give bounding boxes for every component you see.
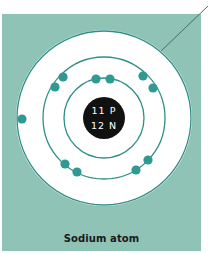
sodium-atom-diagram: 11 P 12 N Sodium atom	[0, 0, 208, 254]
electron	[72, 167, 81, 176]
electron	[105, 74, 114, 83]
electron	[60, 159, 69, 168]
electron	[50, 82, 59, 91]
electron	[131, 165, 140, 174]
nucleus	[83, 97, 125, 139]
electron	[17, 114, 26, 123]
electron	[138, 71, 147, 80]
diagram-title: Sodium atom	[2, 233, 201, 244]
electron	[148, 83, 157, 92]
protons-label: 11 P	[84, 105, 124, 116]
neutrons-label: 12 N	[84, 120, 124, 131]
electron	[58, 72, 67, 81]
electron	[91, 74, 100, 83]
electron	[143, 155, 152, 164]
